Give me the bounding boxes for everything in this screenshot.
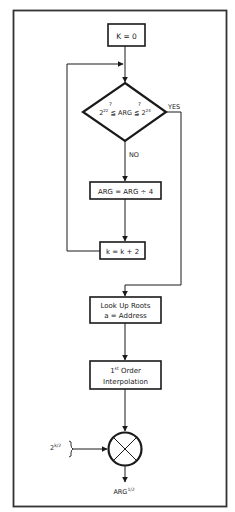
init-box: K = 0 xyxy=(108,24,145,46)
edge-yes xyxy=(125,112,181,296)
output-label: ARG1/2 xyxy=(113,487,134,496)
multiplier-circle-icon xyxy=(109,433,142,466)
input-brace-icon xyxy=(69,441,73,457)
flowchart-canvas: K = 0 222 ≦ ARG ≦ 224 ? ? YES NO ARG = A… xyxy=(0,0,235,512)
interp-box: 1st Order Interpolation xyxy=(90,361,161,389)
lookup-line2: a = Address xyxy=(104,312,147,320)
lookup-box: Look Up Roots a = Address xyxy=(90,297,161,323)
input-label: 2k/2 xyxy=(50,443,61,452)
interp-line2: Interpolation xyxy=(103,378,148,386)
lookup-line1: Look Up Roots xyxy=(101,302,151,310)
decision-q-low: ? xyxy=(109,101,112,107)
increment-box: k = k + 2 xyxy=(100,242,145,259)
decision-diamond: 222 ≦ ARG ≦ 224 ? ? xyxy=(83,83,166,141)
divide-box: ARG = ARG ÷ 4 xyxy=(90,182,161,199)
divide-label: ARG = ARG ÷ 4 xyxy=(98,188,154,196)
decision-q-high: ? xyxy=(138,101,141,107)
no-label: NO xyxy=(129,151,139,159)
yes-label: YES xyxy=(167,103,180,111)
init-label: K = 0 xyxy=(116,32,137,41)
increment-label: k = k + 2 xyxy=(106,248,139,256)
